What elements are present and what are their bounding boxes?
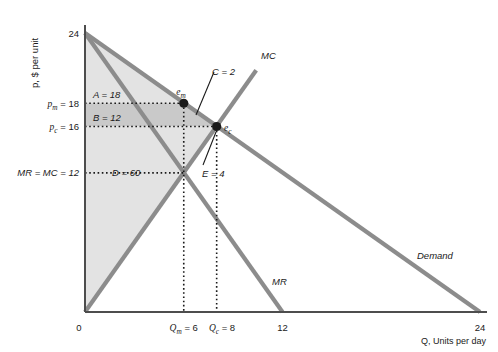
region-label-d: D = 60 — [112, 167, 141, 178]
y-tick-pm: pm = 18 — [47, 98, 79, 112]
x-tick-qm-value: = 6 — [182, 322, 198, 333]
point-ec — [212, 122, 221, 131]
shaded-regions — [85, 33, 217, 312]
curve-label-mr: MR — [272, 276, 287, 287]
x-tick-24: 24 — [475, 322, 486, 333]
point-label-em-subscript: m — [180, 91, 185, 100]
monopoly-welfare-chart: p, $ per unit Q, Units per day 24 pm = 1… — [0, 0, 498, 352]
curve-label-mc: MC — [261, 50, 276, 61]
y-tick-24: 24 — [68, 28, 79, 39]
x-axis-title: Q, Units per day — [421, 336, 487, 346]
x-tick-qc-value: = 8 — [219, 322, 235, 333]
curve-label-demand: Demand — [417, 250, 454, 261]
region-label-a: A = 18 — [92, 89, 121, 100]
y-tick-pm-value: = 18 — [58, 98, 79, 109]
leader-c — [196, 72, 214, 115]
region-label-c: C = 2 — [212, 66, 236, 77]
y-tick-mrmc: MR = MC = 12 — [17, 167, 79, 178]
y-axis-title: p, $ per unit — [29, 37, 40, 88]
x-tick-0: 0 — [76, 322, 81, 333]
x-tick-qc: Qc = 8 — [209, 322, 235, 336]
point-em — [179, 99, 188, 108]
y-tick-pc: pc = 16 — [49, 121, 79, 135]
x-tick-12: 12 — [277, 322, 288, 333]
y-tick-pc-value: = 16 — [58, 121, 79, 132]
region-label-e: E = 4 — [202, 168, 224, 179]
chart-container: p, $ per unit Q, Units per day 24 pm = 1… — [0, 0, 498, 352]
region-label-b: B = 12 — [93, 112, 121, 123]
x-tick-qm: Qm = 6 — [170, 322, 198, 336]
